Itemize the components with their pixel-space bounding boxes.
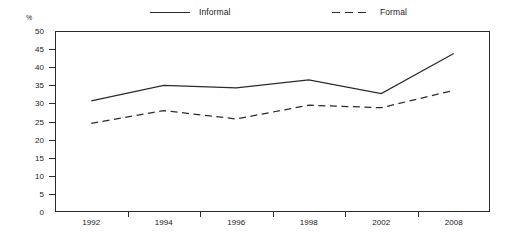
data-series-layer (55, 31, 490, 212)
y-tick-label-25: 25 (35, 117, 44, 126)
line-series-informal (91, 53, 454, 100)
legend-label-informal: Informal (199, 7, 231, 17)
legend-solid-line-icon (150, 8, 190, 17)
x-tick-mark-2 (200, 212, 201, 217)
y-tick-label-15: 15 (35, 153, 44, 162)
y-tick-label-35: 35 (35, 81, 44, 90)
y-tick-label-30: 30 (35, 99, 44, 108)
x-tick-mark-4 (345, 212, 346, 217)
legend-item-formal[interactable]: Formal (331, 3, 407, 21)
legend-dashed-line-icon (331, 8, 371, 17)
x-tick-mark-3 (273, 212, 274, 217)
x-tick-label-1994: 1994 (155, 218, 173, 227)
legend-label-formal: Formal (380, 7, 407, 17)
x-tick-mark-1 (128, 212, 129, 217)
y-tick-label-10: 10 (35, 171, 44, 180)
y-tick-label-0: 0 (40, 208, 44, 217)
x-tick-label-1996: 1996 (227, 218, 245, 227)
chart-legend: Informal Formal (0, 3, 506, 21)
x-tick-label-1998: 1998 (300, 218, 318, 227)
chart-figure: Informal Formal % 05101520253035404550 1… (0, 0, 506, 243)
x-tick-label-1992: 1992 (82, 218, 100, 227)
line-series-formal (91, 90, 454, 123)
y-tick-label-50: 50 (35, 27, 44, 36)
x-tick-label-2002: 2002 (372, 218, 390, 227)
legend-item-informal[interactable]: Informal (150, 3, 231, 21)
y-tick-label-40: 40 (35, 63, 44, 72)
y-tick-label-45: 45 (35, 45, 44, 54)
y-tick-label-5: 5 (40, 189, 44, 198)
x-tick-label-2008: 2008 (445, 218, 463, 227)
x-tick-mark-5 (418, 212, 419, 217)
y-axis: 05101520253035404550 (0, 0, 55, 243)
y-tick-label-20: 20 (35, 135, 44, 144)
